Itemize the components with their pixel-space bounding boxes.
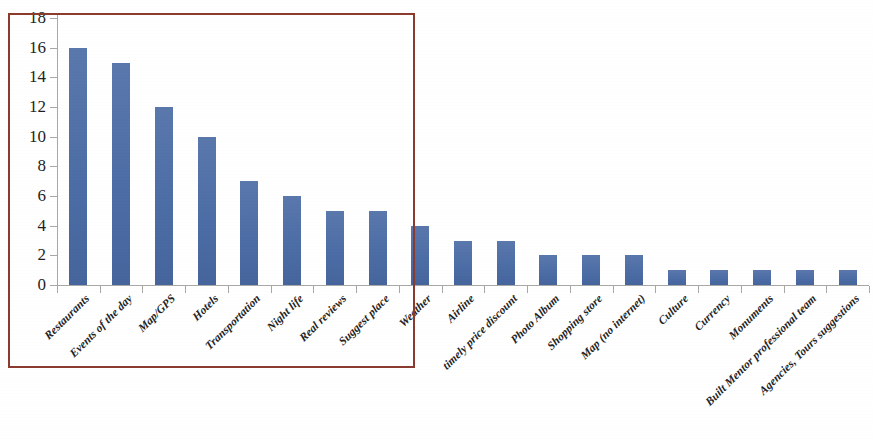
- x-axis-category-label: Currency: [692, 292, 733, 333]
- y-axis-tick: [50, 226, 58, 227]
- bar: [839, 270, 857, 285]
- bar: [753, 270, 771, 285]
- x-axis-tick: [698, 286, 699, 293]
- y-axis-tick-label: 8: [0, 157, 46, 174]
- bar: [155, 107, 173, 285]
- x-axis-tick: [869, 286, 870, 293]
- x-axis-tick: [228, 286, 229, 293]
- bar: [710, 270, 728, 285]
- bar: [625, 255, 643, 285]
- bar: [582, 255, 600, 285]
- y-axis-tick: [50, 107, 58, 108]
- y-axis-tick: [50, 196, 58, 197]
- x-axis-tick: [313, 286, 314, 293]
- x-axis-category-label: Weather: [397, 292, 434, 329]
- bar: [668, 270, 686, 285]
- bar: [326, 211, 344, 285]
- y-axis-tick-label: 0: [0, 276, 46, 293]
- x-axis-tick: [142, 286, 143, 293]
- bar: [454, 241, 472, 286]
- bar: [411, 226, 429, 285]
- bar: [539, 255, 557, 285]
- y-axis-line: [57, 14, 58, 286]
- bar: [283, 196, 301, 285]
- x-axis-tick: [271, 286, 272, 293]
- x-axis-tick: [484, 286, 485, 293]
- y-axis-tick: [50, 255, 58, 256]
- x-axis-tick: [442, 286, 443, 293]
- x-axis-category-label: Night life: [264, 292, 305, 333]
- x-axis-tick: [399, 286, 400, 293]
- x-axis-tick: [57, 286, 58, 293]
- x-axis-tick: [655, 286, 656, 293]
- x-axis-line: [57, 285, 869, 286]
- y-axis-tick-label: 4: [0, 217, 46, 234]
- y-axis-tick-label: 10: [0, 128, 46, 145]
- bar: [198, 137, 216, 285]
- bar: [112, 63, 130, 286]
- x-axis-category-label: Map/GPS: [135, 292, 177, 334]
- y-axis-tick: [50, 48, 58, 49]
- x-axis-category-label: Airline: [444, 292, 477, 325]
- x-axis-tick: [527, 286, 528, 293]
- y-axis-tick: [50, 137, 58, 138]
- bar: [369, 211, 387, 285]
- x-axis-tick: [826, 286, 827, 293]
- x-axis-tick: [784, 286, 785, 293]
- y-axis-tick-label: 2: [0, 246, 46, 263]
- y-axis-tick-label: 14: [0, 68, 46, 85]
- y-axis-tick: [50, 166, 58, 167]
- y-axis-tick-label: 16: [0, 39, 46, 56]
- bar: [796, 270, 814, 285]
- y-axis-tick-label: 18: [0, 9, 46, 26]
- y-axis-tick-label: 6: [0, 187, 46, 204]
- x-axis-category-label: Culture: [655, 292, 690, 327]
- bar: [497, 241, 515, 286]
- y-axis-tick: [50, 18, 58, 19]
- x-axis-category-label: timely price discount: [440, 292, 520, 372]
- x-axis-tick: [613, 286, 614, 293]
- x-axis-tick: [185, 286, 186, 293]
- x-axis-tick: [570, 286, 571, 293]
- x-axis-category-label: Hotels: [189, 292, 220, 323]
- bar: [69, 48, 87, 285]
- x-axis-tick: [356, 286, 357, 293]
- bar: [240, 181, 258, 285]
- bar-chart: 024681012141618 RestaurantsEvents of the…: [0, 0, 874, 439]
- x-axis-tick: [100, 286, 101, 293]
- x-axis-tick: [741, 286, 742, 293]
- y-axis-tick: [50, 77, 58, 78]
- y-axis-tick-label: 12: [0, 98, 46, 115]
